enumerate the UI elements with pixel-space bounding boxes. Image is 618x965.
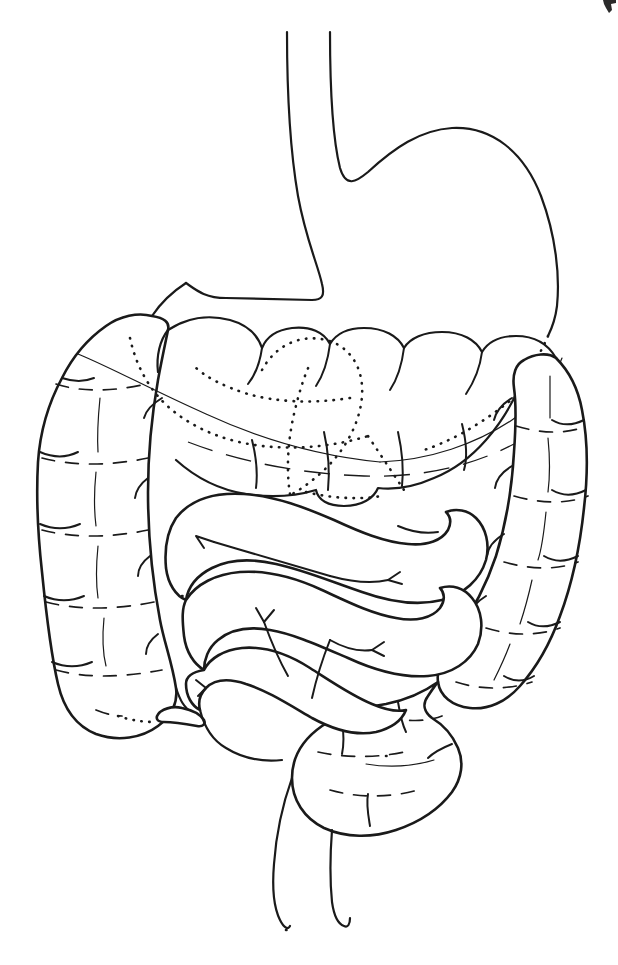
digestive-system-illustration (0, 0, 618, 965)
digestive-system-figure: Human digestive tract line drawing gastr… (0, 0, 618, 965)
